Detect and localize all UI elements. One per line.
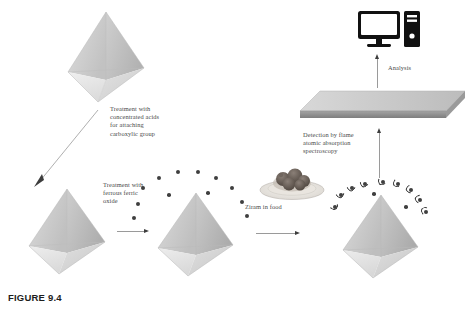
label-step4: Detection by flame atomic absorption spe… bbox=[303, 131, 375, 156]
crystal-middle bbox=[152, 190, 238, 278]
crystal-left bbox=[22, 186, 110, 276]
crystal-right bbox=[337, 192, 423, 280]
arrow-analysis bbox=[372, 54, 382, 88]
crystal-top bbox=[62, 10, 148, 104]
figure-canvas: Treatment with concentrated acids for at… bbox=[0, 0, 472, 311]
arrow-ferrous-treatment bbox=[117, 226, 149, 236]
arrow-ziram-adsorption bbox=[256, 228, 300, 238]
figure-caption: FIGURE 9.4 bbox=[8, 292, 62, 303]
label-step3: Ziram in food bbox=[245, 203, 305, 211]
arrow-acid-treatment bbox=[30, 107, 102, 189]
food-plate bbox=[258, 163, 326, 201]
label-step1: Treatment with concentrated acids for at… bbox=[110, 105, 202, 138]
arrow-detection bbox=[374, 128, 384, 178]
label-step5: Analysis bbox=[388, 64, 438, 72]
computer-icon bbox=[357, 8, 421, 50]
instrument-slab bbox=[298, 88, 466, 124]
